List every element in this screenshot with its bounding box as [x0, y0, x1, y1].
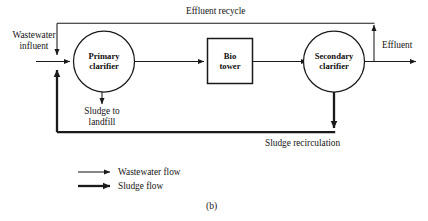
process-flow-diagram: Primary clarifier Bio tower Secondary cl…	[0, 0, 428, 221]
sludge-recirculation-label: Sludge recirculation	[265, 138, 340, 149]
effluent-label: Effluent	[382, 40, 412, 51]
sludge-to-landfill-line1: Sludge to	[66, 106, 138, 117]
influent-label-line1: Wastewater	[0, 30, 68, 41]
influent-label-line2: influent	[0, 41, 68, 52]
figure-caption: (b)	[206, 200, 217, 211]
influent-label: Wastewater influent	[0, 30, 68, 51]
secondary-clarifier-label-line2: clarifier	[303, 62, 365, 72]
bio-tower-label: Bio tower	[200, 52, 260, 71]
legend-wastewater-flow-label: Wastewater flow	[118, 167, 181, 177]
primary-clarifier-label: Primary clarifier	[74, 52, 134, 71]
sludge-to-landfill-line2: landfill	[66, 117, 138, 128]
effluent-recycle-label: Effluent recycle	[186, 6, 245, 17]
sludge-to-landfill-label: Sludge to landfill	[66, 106, 138, 127]
legend-sludge-flow-label: Sludge flow	[118, 181, 163, 191]
bio-tower-label-line2: tower	[200, 62, 260, 72]
secondary-clarifier-label: Secondary clarifier	[303, 52, 365, 71]
legend-arrows	[78, 172, 110, 186]
primary-clarifier-label-line2: clarifier	[74, 62, 134, 72]
